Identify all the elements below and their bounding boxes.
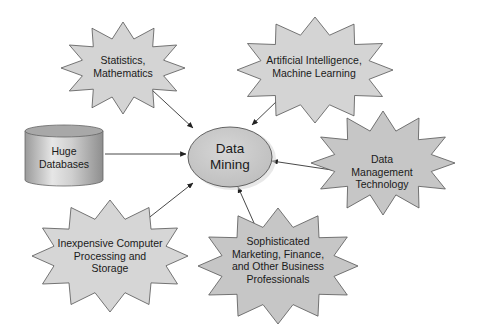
label-data-mining: Data Mining — [210, 141, 250, 172]
label-line: and Other Business — [232, 260, 324, 273]
label-line: Storage — [57, 262, 162, 275]
label-line: Data — [351, 153, 412, 166]
edge-inexpensive-computing — [146, 183, 193, 220]
label-line: Processing and — [57, 250, 162, 263]
label-line: Huge — [39, 145, 89, 158]
label-line: Sophisticated — [232, 235, 324, 248]
label-inexpensive-computing: Inexpensive Computer Processing and Stor… — [57, 237, 162, 275]
edge-statistics — [152, 90, 193, 128]
label-line: Professionals — [232, 273, 324, 286]
label-line: Marketing, Finance, — [232, 247, 324, 260]
label-business-professionals: Sophisticated Marketing, Finance, and Ot… — [232, 235, 324, 285]
label-line: Data — [210, 141, 250, 157]
label-line: Mining — [210, 157, 250, 173]
label-line: Mathematics — [93, 67, 153, 80]
label-line: Databases — [39, 158, 89, 171]
label-ai: Artificial Intelligence, Machine Learnin… — [266, 54, 362, 79]
label-line: Statistics, — [93, 54, 153, 67]
label-line: Artificial Intelligence, — [266, 54, 362, 67]
label-statistics: Statistics, Mathematics — [93, 54, 153, 79]
label-line: Technology — [351, 178, 412, 191]
label-line: Inexpensive Computer — [57, 237, 162, 250]
edge-ai — [252, 100, 278, 125]
label-line: Management — [351, 166, 412, 179]
label-line: Machine Learning — [266, 67, 362, 80]
label-huge-databases: Huge Databases — [39, 145, 89, 170]
label-data-management: Data Management Technology — [351, 153, 412, 191]
